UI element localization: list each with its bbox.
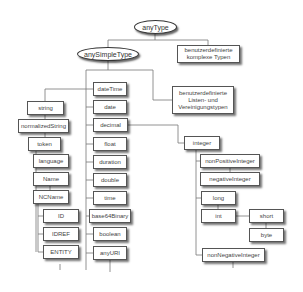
node-long: long xyxy=(201,191,236,205)
node-string: string xyxy=(27,101,64,115)
node-integer: integer xyxy=(184,136,220,150)
node-ncname: NCName xyxy=(33,190,69,204)
node-byte: byte xyxy=(249,228,284,242)
node-language: language xyxy=(33,154,69,168)
node-idref: IDREF xyxy=(43,227,79,241)
node-entity: ENTITY xyxy=(43,245,79,259)
node-negativeinteger: negativeInteger xyxy=(200,172,260,186)
node-name: Name xyxy=(33,172,69,186)
node-normalizedstring: normalizedString xyxy=(18,119,69,133)
node-anytype: anyType xyxy=(134,20,177,34)
node-base64binary: base64Binary xyxy=(89,209,131,223)
node-id: ID xyxy=(43,209,79,223)
node-list-union-types: benutzerdefinierte Listen- und Vereinigu… xyxy=(172,86,234,114)
node-anysimpletype: anySimpleType xyxy=(77,47,139,61)
node-int: int xyxy=(201,209,236,223)
node-nonpositiveinteger: nonPositiveInteger xyxy=(200,154,260,168)
node-anyuri: anyURI xyxy=(93,246,127,260)
node-duration: duration xyxy=(93,155,127,169)
node-time: time xyxy=(93,191,127,205)
node-nonnegativeinteger: nonNegativeInteger xyxy=(202,248,265,262)
node-decimal: decimal xyxy=(93,118,128,132)
xml-schema-type-hierarchy-diagram: anyType anySimpleType benutzerdefinierte… xyxy=(0,0,303,292)
node-complex-types: benutzerdefinierte komplexe Typen xyxy=(177,45,240,63)
node-float: float xyxy=(93,137,127,151)
node-token: token xyxy=(28,137,61,151)
node-date: date xyxy=(93,100,127,114)
node-short: short xyxy=(249,209,284,223)
node-boolean: boolean xyxy=(93,227,127,241)
node-datetime: dateTime xyxy=(93,82,127,96)
node-double: double xyxy=(93,173,127,187)
